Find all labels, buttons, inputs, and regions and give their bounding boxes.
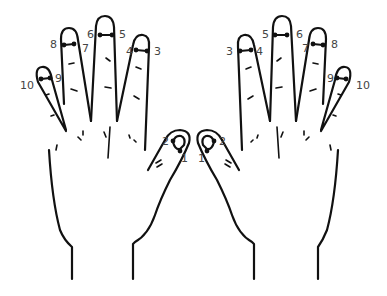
left-label-10: 10	[20, 79, 34, 92]
right-label-5: 5	[262, 28, 269, 41]
left-label-3: 3	[154, 45, 161, 58]
left-palm-outer-edge	[49, 150, 72, 279]
left-label-7: 7	[82, 42, 89, 55]
left-index-finger-outline	[117, 35, 149, 150]
right-ring-finger-outline	[296, 28, 326, 121]
left-label-9: 9	[55, 72, 62, 85]
right-label-4: 4	[256, 45, 263, 58]
left-hand: 1 2 3 4 5 6 7 8 9 10	[20, 16, 190, 279]
right-hand: 1 2 3 4 5 6 7 8 9 10	[197, 16, 370, 279]
right-label-10: 10	[356, 79, 370, 92]
hands-diagram: 1 2 3 4 5 6 7 8 9 10	[0, 0, 387, 296]
left-label-8: 8	[50, 38, 57, 51]
right-label-3: 3	[226, 45, 233, 58]
right-label-6: 6	[296, 28, 303, 41]
left-label-5: 5	[119, 28, 126, 41]
left-middle-finger-outline	[91, 16, 117, 121]
right-label-8: 8	[331, 38, 338, 51]
left-label-2: 2	[162, 135, 169, 148]
right-label-7: 7	[302, 42, 309, 55]
left-label-4: 4	[126, 45, 133, 58]
right-label-2: 2	[219, 135, 226, 148]
right-label-9: 9	[327, 72, 334, 85]
right-middle-finger-outline	[270, 16, 296, 121]
right-index-finger-outline	[238, 35, 270, 150]
left-label-6: 6	[87, 28, 94, 41]
right-label-1: 1	[198, 152, 205, 165]
right-palm-outer-edge	[318, 150, 338, 279]
left-label-1: 1	[181, 152, 188, 165]
